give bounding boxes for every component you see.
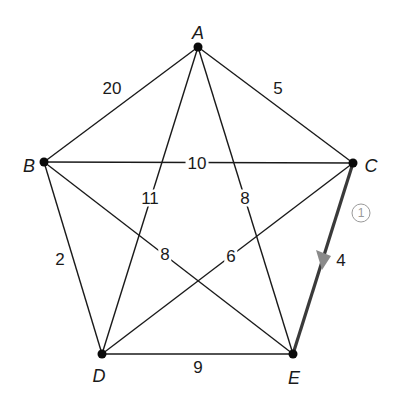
arrow-down-icon <box>316 250 331 270</box>
node-label-E: E <box>288 369 300 387</box>
weight-A-B: 20 <box>101 80 124 97</box>
weight-A-D: 11 <box>139 190 161 207</box>
node-label-B: B <box>23 157 35 175</box>
node-B <box>40 158 49 167</box>
node-C <box>349 159 358 168</box>
edge-A-B <box>44 47 198 162</box>
weight-C-D: 6 <box>224 248 237 265</box>
weight-B-C: 10 <box>186 155 209 172</box>
node-A <box>194 43 203 52</box>
edge-A-C <box>198 47 353 163</box>
node-E <box>289 350 298 359</box>
weight-B-E: 8 <box>158 246 171 263</box>
graph-edges <box>0 0 396 403</box>
graph-diagram: A B C D E 20 5 11 8 10 2 8 6 4 9 1 <box>0 0 396 403</box>
weight-D-E: 9 <box>191 359 204 376</box>
node-label-C: C <box>365 157 378 175</box>
weight-C-E: 4 <box>334 252 347 269</box>
node-label-D: D <box>93 367 106 385</box>
node-D <box>98 350 107 359</box>
weight-A-C: 5 <box>271 80 284 97</box>
step-marker-circle: 1 <box>352 204 371 223</box>
weight-A-E: 8 <box>238 190 251 207</box>
node-label-A: A <box>192 24 204 42</box>
weight-B-D: 2 <box>53 251 66 268</box>
